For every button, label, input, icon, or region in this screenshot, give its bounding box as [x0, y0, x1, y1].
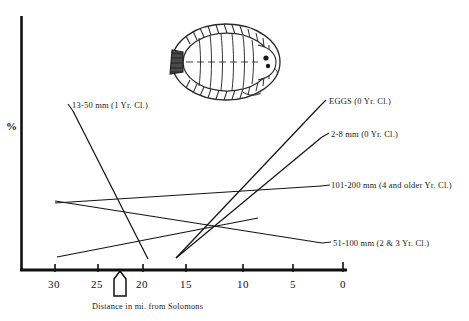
series-label-13-50mm: 13-50 mm (1 Yr. Cl.) [72, 100, 148, 110]
x-tick-20: 20 [136, 278, 148, 290]
series-lines [55, 106, 322, 259]
flatfish-illustration [170, 24, 280, 100]
series-label-2-8mm: 2-8 mm (0 Yr. Cl.) [331, 129, 398, 139]
x-tick-5: 5 [290, 278, 296, 290]
x-tick-10: 10 [237, 278, 249, 290]
series-label-101-200mm: 101-200 mm (4 and older Yr. Cl.) [331, 180, 452, 190]
x-tick-25: 25 [91, 278, 103, 290]
series-line-101-200mm [55, 186, 321, 203]
series-line-13-50mm [73, 111, 148, 259]
series-line-lower-branch [57, 218, 258, 257]
label-leaders [68, 100, 331, 243]
figure-canvas: % 13-50 mm (1 Yr. Cl.) EGGS (0 Yr. Cl.) … [0, 0, 469, 321]
x-tick-15: 15 [180, 278, 192, 290]
series-line-eggs [176, 106, 320, 258]
series-line-51-100mm [55, 201, 322, 243]
chart-plot-area [0, 0, 469, 321]
series-label-eggs: EGGS (0 Yr. Cl.) [329, 96, 391, 106]
x-axis-title: Distance in mi. from Solomons [92, 302, 203, 311]
x-tick-30: 30 [48, 278, 60, 290]
station-arrow-marker [114, 271, 126, 296]
y-axis-label: % [6, 120, 17, 132]
x-tick-0: 0 [340, 278, 346, 290]
series-label-51-100mm: 51-100 mm (2 & 3 Yr. Cl.) [333, 238, 429, 248]
